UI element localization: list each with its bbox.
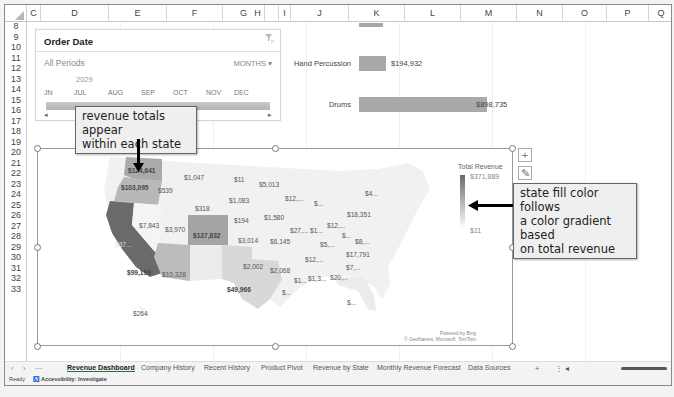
row-header[interactable]: 33 bbox=[5, 284, 27, 294]
row-header[interactable]: 28 bbox=[5, 231, 27, 241]
row-header[interactable]: 16 bbox=[5, 105, 27, 115]
state-label-ks: $3,014 bbox=[238, 237, 258, 244]
column-header-i[interactable]: I bbox=[279, 5, 291, 22]
tab-product-pivot[interactable]: Product Pivot bbox=[261, 364, 303, 371]
row-header[interactable]: 14 bbox=[5, 84, 27, 94]
column-header-n[interactable]: N bbox=[517, 5, 563, 22]
bar-hand-percussion[interactable] bbox=[359, 56, 386, 71]
tab-monthly-revenue-forecast[interactable]: Monthly Revenue Forecast bbox=[377, 364, 461, 371]
chart-elements-button[interactable]: + bbox=[518, 148, 532, 162]
row-header[interactable]: 12 bbox=[5, 63, 27, 73]
arrow-left-icon bbox=[468, 200, 478, 211]
row-header[interactable]: 24 bbox=[5, 189, 27, 199]
state-label-ne: $194 bbox=[234, 217, 249, 224]
state-label-la: $... bbox=[282, 289, 291, 296]
tab-revenue-by-state[interactable]: Revenue by State bbox=[313, 364, 369, 371]
state-label-ca: $37... bbox=[115, 241, 132, 248]
more-sheets-button[interactable]: ··· bbox=[35, 364, 43, 373]
excel-window: C D E F G H I J K L M N O P Q 8 9 10 11 … bbox=[4, 4, 672, 386]
state-label-mo: $6,145 bbox=[270, 238, 290, 245]
column-header-k[interactable]: K bbox=[349, 5, 405, 22]
row-header[interactable]: 32 bbox=[5, 273, 27, 283]
accessibility-status[interactable]: Accessibility: Investigate bbox=[41, 376, 107, 382]
timeline-month[interactable]: AUG bbox=[108, 89, 123, 96]
tab-recent-history[interactable]: Recent History bbox=[204, 364, 250, 371]
prev-sheet-button[interactable]: ‹ bbox=[11, 364, 14, 373]
row-header[interactable]: 13 bbox=[5, 74, 27, 84]
chart-styles-button[interactable]: ✎ bbox=[518, 166, 532, 180]
row-header[interactable]: 10 bbox=[5, 42, 27, 52]
row-header[interactable]: 19 bbox=[5, 137, 27, 147]
bar-value-drums: $898,735 bbox=[476, 100, 507, 109]
row-header[interactable]: 20 bbox=[5, 147, 27, 157]
column-header-f[interactable]: F bbox=[167, 5, 223, 22]
tab-company-history[interactable]: Company History bbox=[141, 364, 195, 371]
state-label-ky: $5,... bbox=[320, 241, 335, 248]
time-level-dropdown[interactable]: MONTHS ▾ bbox=[233, 59, 272, 68]
tab-revenue-dashboard[interactable]: Revenue Dashboard bbox=[67, 364, 135, 372]
scroll-right-icon[interactable]: ▸ bbox=[268, 111, 272, 119]
selected-periods-label: All Periods bbox=[44, 58, 85, 68]
state-label-nv: $7,843 bbox=[139, 222, 159, 229]
column-header-c[interactable]: C bbox=[27, 5, 41, 22]
row-header[interactable]: 31 bbox=[5, 263, 27, 273]
column-header-j[interactable]: J bbox=[291, 5, 349, 22]
timeline-month[interactable]: SEP bbox=[141, 89, 155, 96]
state-label-oh: $12,... bbox=[327, 222, 345, 229]
add-sheet-button[interactable]: + bbox=[535, 364, 539, 373]
sheet-options-button[interactable]: ⋮ bbox=[555, 364, 563, 373]
row-header[interactable]: 30 bbox=[5, 252, 27, 262]
column-header-p[interactable]: P bbox=[607, 5, 649, 22]
state-label-ar: $2,068 bbox=[270, 267, 290, 274]
state-label-wy: $318 bbox=[195, 205, 210, 212]
chevron-down-icon: ▾ bbox=[268, 59, 272, 68]
column-header-m[interactable]: M bbox=[461, 5, 517, 22]
horizontal-scrollbar[interactable] bbox=[621, 367, 667, 370]
timeline-month[interactable]: JN bbox=[44, 89, 53, 96]
timeline-month[interactable]: JUL bbox=[74, 89, 86, 96]
timeline-month[interactable]: OCT bbox=[173, 89, 188, 96]
column-header-q[interactable]: Q bbox=[649, 5, 672, 22]
row-header[interactable]: 11 bbox=[5, 53, 27, 63]
select-all-corner[interactable] bbox=[5, 5, 27, 22]
revenue-by-state-map-chart[interactable]: $124,641 $103,095 $539 $1,047 $11 $5,013… bbox=[37, 148, 513, 346]
state-label-wi: $12,... bbox=[285, 195, 303, 202]
row-header[interactable]: 15 bbox=[5, 95, 27, 105]
row-header[interactable]: 26 bbox=[5, 210, 27, 220]
scroll-left-icon[interactable]: ◂ bbox=[565, 364, 569, 373]
column-header-l[interactable]: L bbox=[405, 5, 461, 22]
state-label-hi: $264 bbox=[133, 310, 148, 317]
row-header[interactable]: 25 bbox=[5, 200, 27, 210]
state-label-sd: $1,083 bbox=[229, 197, 249, 204]
timeline-month[interactable]: NOV bbox=[206, 89, 221, 96]
column-header-h[interactable]: H bbox=[237, 5, 279, 22]
annotation-text: within each state bbox=[82, 137, 190, 151]
state-label-sc: $7,... bbox=[346, 264, 361, 271]
sheet-tab-bar: ‹ › ··· Revenue Dashboard Company Histor… bbox=[5, 361, 671, 374]
row-header[interactable]: 8 bbox=[5, 21, 27, 31]
row-header[interactable]: 9 bbox=[5, 32, 27, 42]
clear-filter-icon[interactable] bbox=[265, 34, 274, 45]
row-header[interactable]: 29 bbox=[5, 242, 27, 252]
row-header[interactable]: 27 bbox=[5, 221, 27, 231]
timeline-month[interactable]: DEC bbox=[234, 89, 249, 96]
bar-drums[interactable] bbox=[359, 97, 487, 112]
annotation-state-totals: revenue totals appear within each state bbox=[75, 106, 197, 154]
state-label-ut: $3,970 bbox=[165, 226, 185, 233]
us-states-map bbox=[38, 149, 514, 347]
state-label-fl: $... bbox=[347, 299, 356, 306]
row-header[interactable]: 17 bbox=[5, 116, 27, 126]
annotation-text: a color gradient based bbox=[520, 214, 630, 242]
scroll-left-icon[interactable]: ◂ bbox=[44, 111, 48, 119]
row-header[interactable]: 23 bbox=[5, 179, 27, 189]
tab-data-sources[interactable]: Data Sources bbox=[468, 364, 510, 371]
column-header-o[interactable]: O bbox=[563, 5, 607, 22]
row-header[interactable]: 21 bbox=[5, 158, 27, 168]
row-header[interactable]: 18 bbox=[5, 126, 27, 136]
next-sheet-button[interactable]: › bbox=[23, 364, 26, 373]
column-header-d[interactable]: D bbox=[41, 5, 109, 22]
row-header[interactable]: 22 bbox=[5, 168, 27, 178]
column-header-e[interactable]: E bbox=[109, 5, 167, 22]
state-label-wv: $... bbox=[342, 232, 351, 239]
state-label-co: $137,832 bbox=[193, 232, 221, 239]
